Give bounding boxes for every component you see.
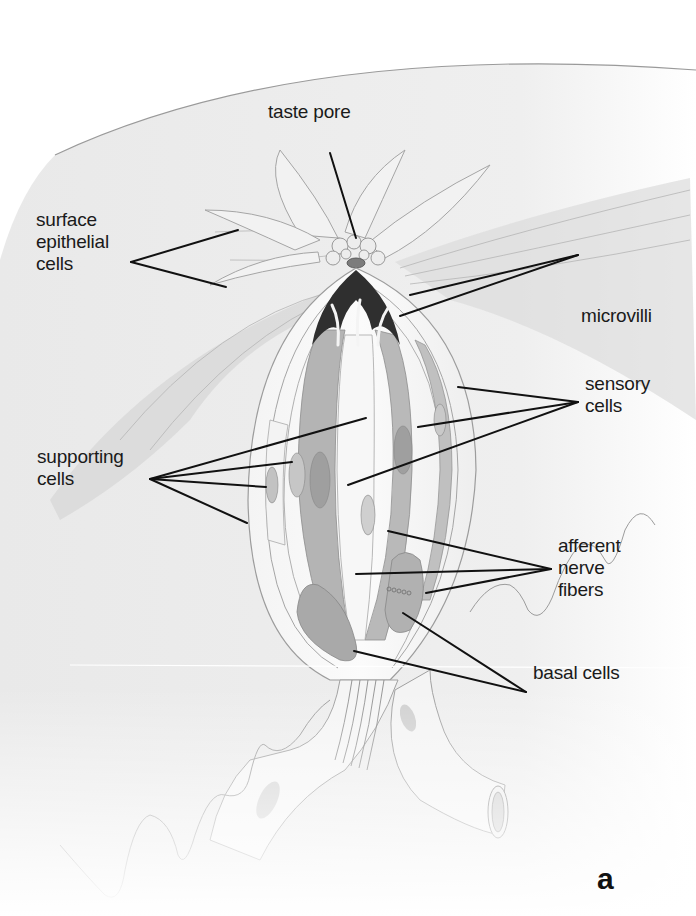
label-supporting-cells: supporting cells — [37, 446, 124, 490]
label-surface-epithelial-cells: surface epithelial cells — [36, 209, 109, 275]
label-microvilli: microvilli — [581, 305, 652, 327]
label-taste-pore: taste pore — [268, 101, 351, 123]
label-sensory-cells: sensory cells — [585, 373, 650, 417]
label-basal-cells: basal cells — [533, 662, 620, 684]
label-afferent-nerve-fibers: afferent nerve fibers — [558, 535, 621, 601]
panel-letter: a — [597, 862, 614, 896]
